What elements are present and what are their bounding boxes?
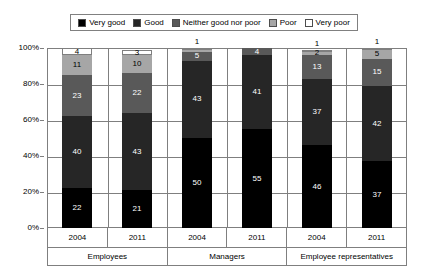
bar-segment[interactable]: 11: [62, 55, 92, 75]
legend-entry: Good: [133, 19, 164, 27]
legend-label: Neither good nor poor: [183, 19, 261, 27]
y-axis-tick-label: 100%: [19, 44, 39, 52]
bar-segment[interactable]: 46: [302, 145, 332, 228]
bar-segment-label: 5: [195, 52, 199, 60]
x-axis-year-label: 2011: [107, 228, 167, 248]
y-axis-tick-label: 0%: [27, 224, 39, 232]
bar-segment[interactable]: 4: [242, 48, 272, 55]
bar-segment-label: 37: [313, 108, 322, 116]
stacked-bar[interactable]: 411234022: [62, 48, 92, 228]
y-axis-tick-label: 60%: [23, 116, 39, 124]
bar-segment[interactable]: 43: [182, 61, 212, 138]
bar-segment[interactable]: 13: [302, 55, 332, 78]
bar-segment-label: 10: [133, 60, 142, 68]
bar-segment[interactable]: 22: [62, 188, 92, 228]
legend-swatch-icon: [269, 19, 277, 27]
x-axis-year-label: 2004: [286, 228, 346, 248]
x-axis-group-row: EmployeesManagersEmployee representative…: [47, 248, 407, 266]
x-axis-year-label: 2004: [167, 228, 227, 248]
legend-label: Poor: [280, 19, 297, 27]
bar-segment[interactable]: 5: [362, 50, 392, 59]
bar-segment[interactable]: 4: [62, 48, 92, 55]
stacked-bar[interactable]: 310224321: [122, 48, 152, 228]
bar-slot[interactable]: 411234022: [47, 48, 107, 228]
bar-slot[interactable]: 310224321: [107, 48, 167, 228]
x-axis-year-label: 2004: [47, 228, 107, 248]
y-axis-tick-mark: [40, 84, 44, 85]
bar-segment[interactable]: 37: [362, 161, 392, 228]
legend-label: Good: [144, 19, 164, 27]
y-axis-tick-label: 40%: [23, 152, 39, 160]
bar-segment[interactable]: 23: [62, 75, 92, 116]
bar-segment[interactable]: 21: [122, 190, 152, 228]
bar-segment-label: 46: [313, 183, 322, 191]
bar-segment-label: 22: [73, 204, 82, 212]
legend-entry: Neither good nor poor: [172, 19, 261, 27]
bar-segment[interactable]: 37: [302, 79, 332, 146]
bar-slot[interactable]: 154350: [167, 48, 227, 228]
stacked-bar[interactable]: 12133746: [302, 48, 332, 228]
bar-segment[interactable]: 42: [362, 86, 392, 162]
bars-layer: 4112340223102243211543504415512133746151…: [47, 48, 407, 228]
stacked-bar[interactable]: 44155: [242, 48, 272, 228]
x-axis-group-label: Managers: [167, 248, 287, 266]
y-axis-tick-mark: [40, 120, 44, 121]
x-axis-year-row: 200420112004201120042011: [47, 228, 407, 248]
bar-segment-label: 41: [253, 88, 262, 96]
y-axis-tick-mark: [40, 192, 44, 193]
bar-segment[interactable]: 43: [122, 113, 152, 190]
legend-entry: Poor: [269, 19, 297, 27]
bar-segment-label: 43: [193, 95, 202, 103]
bar-segment[interactable]: 10: [122, 55, 152, 73]
bar-segment-label: 21: [133, 205, 142, 213]
x-axis: 200420112004201120042011 EmployeesManage…: [47, 228, 407, 268]
bar-slot[interactable]: 12133746: [287, 48, 347, 228]
bar-segment-label: 1: [195, 38, 199, 46]
stacked-bar[interactable]: 15154237: [362, 48, 392, 228]
stacked-bar[interactable]: 154350: [182, 48, 212, 228]
bar-segment-label: 37: [373, 191, 382, 199]
legend-entry: Very good: [78, 19, 125, 27]
bar-segment[interactable]: 41: [242, 55, 272, 129]
legend-swatch-icon: [78, 19, 86, 27]
bar-segment[interactable]: 15: [362, 59, 392, 86]
x-axis-group-label: Employees: [47, 248, 167, 266]
bar-segment-label: 5: [375, 50, 379, 58]
bar-segment[interactable]: 50: [182, 138, 212, 228]
x-axis-group-label: Employee representatives: [286, 248, 407, 266]
y-axis: 0%20%40%60%80%100%: [8, 42, 44, 234]
bar-segment-label: 13: [313, 63, 322, 71]
y-axis-tick-mark: [40, 156, 44, 157]
bar-segment-label: 15: [373, 68, 382, 76]
bar-segment-label: 1: [375, 38, 379, 46]
chart-legend: Very goodGoodNeither good nor poorPoorVe…: [70, 14, 358, 31]
legend-swatch-icon: [133, 19, 141, 27]
bar-segment-label: 22: [133, 89, 142, 97]
legend-swatch-icon: [172, 19, 180, 27]
bar-segment-label: 40: [73, 148, 82, 156]
y-axis-tick-mark: [40, 48, 44, 49]
y-axis-tick-label: 20%: [23, 188, 39, 196]
bar-segment-label: 43: [133, 148, 142, 156]
bar-segment[interactable]: 5: [182, 52, 212, 61]
x-axis-year-label: 2011: [346, 228, 407, 248]
bar-slot[interactable]: 44155: [227, 48, 287, 228]
legend-label: Very good: [89, 19, 125, 27]
bar-segment-label: 1: [315, 40, 319, 48]
bar-segment[interactable]: 40: [62, 116, 92, 188]
bar-segment-label: 55: [253, 175, 262, 183]
bar-slot[interactable]: 15154237: [347, 48, 407, 228]
y-axis-tick-mark: [40, 228, 44, 229]
bar-segment[interactable]: 55: [242, 129, 272, 228]
x-axis-year-label: 2011: [226, 228, 286, 248]
y-axis-tick-label: 80%: [23, 80, 39, 88]
bar-segment-label: 42: [373, 120, 382, 128]
bar-segment-label: 23: [73, 92, 82, 100]
legend-swatch-icon: [305, 19, 313, 27]
bar-segment-label: 11: [73, 61, 81, 69]
bar-segment-label: 50: [193, 179, 202, 187]
legend-entry: Very poor: [305, 19, 350, 27]
bar-segment[interactable]: 22: [122, 73, 152, 113]
legend-label: Very poor: [316, 19, 350, 27]
